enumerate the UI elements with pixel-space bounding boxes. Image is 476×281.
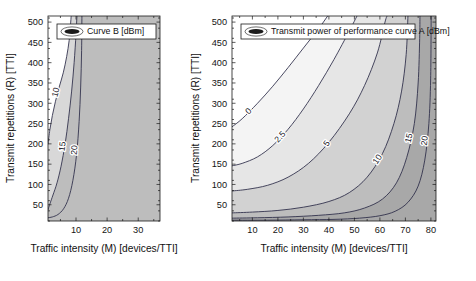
y-tick-label: 500	[28, 17, 43, 27]
x-tick-label: 50	[349, 225, 359, 235]
chart-panel-left: 101015152020 501001502002503003504004505…	[0, 0, 186, 281]
x-tick-label: 70	[400, 225, 410, 235]
legend-label-right: Transmit power of performance curve A [d…	[271, 26, 450, 36]
legend-label-left: Curve B [dBm]	[87, 26, 144, 36]
y-tick-label: 300	[212, 99, 227, 109]
x-axis-label-left: Traffic intensity (M) [devices/TTI]	[30, 243, 177, 254]
x-tick-labels-right: 1020304050607080	[247, 225, 436, 235]
y-tick-label: 100	[212, 180, 227, 190]
y-tick-label: 400	[28, 58, 43, 68]
y-tick-label: 200	[28, 139, 43, 149]
contour-figure: 101015152020 501001502002503003504004505…	[0, 0, 476, 281]
y-tick-label: 100	[28, 180, 43, 190]
legend-marker-icon-left	[61, 27, 83, 36]
contour-level-label: 20	[419, 135, 430, 146]
chart-svg-left: 101015152020 501001502002503003504004505…	[0, 0, 186, 281]
x-tick-label: 10	[71, 225, 81, 235]
y-tick-label: 200	[212, 139, 227, 149]
y-tick-label: 400	[212, 58, 227, 68]
x-tick-label: 80	[426, 225, 436, 235]
chart-panel-right: 002.52.555101015152020 50100150200250300…	[186, 0, 476, 281]
y-tick-label: 150	[28, 159, 43, 169]
contour-level-label: 15	[57, 141, 68, 152]
x-tick-label: 40	[324, 225, 334, 235]
y-tick-label: 500	[212, 17, 227, 27]
legend-left[interactable]: Curve B [dBm]	[57, 24, 156, 39]
y-tick-label: 350	[28, 78, 43, 88]
y-axis-label-right: Transmit repetitions (R) [TTI]	[190, 53, 201, 183]
y-tick-label: 450	[28, 38, 43, 48]
y-tick-labels-right: 50100150200250300350400450500	[212, 17, 227, 210]
contour-level-label: 20	[69, 145, 80, 156]
y-tick-label: 50	[217, 200, 227, 210]
x-tick-label: 60	[375, 225, 385, 235]
y-tick-label: 450	[212, 38, 227, 48]
x-tick-label: 20	[273, 225, 283, 235]
y-tick-label: 50	[33, 200, 43, 210]
legend-marker-icon-right	[245, 27, 267, 36]
y-tick-label: 350	[212, 78, 227, 88]
x-tick-label: 30	[133, 225, 143, 235]
y-tick-label: 250	[28, 119, 43, 129]
x-tick-label: 10	[247, 225, 257, 235]
y-tick-label: 250	[212, 119, 227, 129]
x-tick-labels-left: 102030	[71, 225, 143, 235]
chart-svg-right: 002.52.555101015152020 50100150200250300…	[186, 0, 476, 281]
y-axis-label-left: Transmit repetitions (R) [TTI]	[5, 53, 16, 183]
x-tick-label: 20	[102, 225, 112, 235]
y-tick-labels-left: 50100150200250300350400450500	[28, 17, 43, 210]
x-axis-label-right: Traffic intensity (M) [devices/TTI]	[260, 243, 407, 254]
x-tick-label: 30	[298, 225, 308, 235]
y-tick-label: 300	[28, 99, 43, 109]
y-tick-label: 150	[212, 159, 227, 169]
